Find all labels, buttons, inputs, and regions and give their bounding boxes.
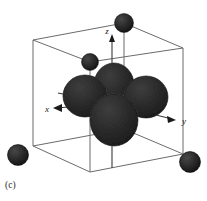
y-axis-arrowhead <box>167 116 176 123</box>
corner-sphere-bottom-left <box>8 145 29 166</box>
cube-edge-top-front-right <box>90 48 183 62</box>
z-axis-label: z <box>104 26 109 36</box>
orbital-diagram-svg: z y x <box>0 0 207 201</box>
y-axis-label: y <box>181 116 186 126</box>
cube-edge-top-back-left <box>33 23 124 40</box>
cube-edge-bottom-front-left <box>33 146 90 172</box>
figure-caption: (c) <box>5 181 16 191</box>
lobe-front-lower <box>90 94 138 146</box>
cube-edge-bottom-front-right <box>90 154 183 172</box>
z-axis-arrowhead <box>109 34 115 42</box>
corner-sphere-top-back-right <box>115 14 134 33</box>
x-axis-label: x <box>44 104 49 114</box>
orbital-figure: z y x (c) <box>0 0 207 201</box>
orbital-lobes <box>63 63 168 146</box>
corner-sphere-bottom-right <box>180 152 201 173</box>
corner-sphere-top-back-left <box>82 54 99 71</box>
x-axis-arrowhead <box>53 104 62 112</box>
cube-edge-top-front-left <box>33 40 90 62</box>
